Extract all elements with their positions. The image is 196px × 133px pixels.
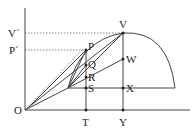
point-v <box>122 32 125 35</box>
point-y <box>122 109 125 112</box>
diagram-canvas: V´ P´ O P Q R S T V W X Y <box>0 0 196 133</box>
label-v-prime: V´ <box>8 27 20 39</box>
projectile-diagram: V´ P´ O P Q R S T V W X Y <box>0 0 196 133</box>
label-y: Y <box>119 116 127 128</box>
o-a-line <box>25 88 68 110</box>
label-v: V <box>119 18 127 30</box>
label-p: P <box>88 40 94 52</box>
o-v-line <box>25 33 123 110</box>
point-t <box>85 109 88 112</box>
label-t: T <box>82 116 89 128</box>
label-q: Q <box>88 58 96 70</box>
point-w <box>122 58 125 61</box>
label-s: S <box>88 82 94 94</box>
label-w: W <box>126 53 137 65</box>
o-p-dotted-line <box>25 50 82 110</box>
label-p-prime: P´ <box>9 44 19 56</box>
label-x: X <box>126 82 134 94</box>
point-x <box>122 87 125 90</box>
label-o: O <box>14 104 22 116</box>
